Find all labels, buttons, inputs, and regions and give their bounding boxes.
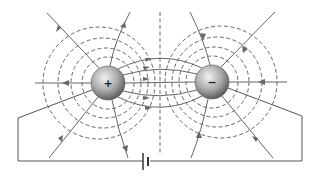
- dipole-diagram: + −: [0, 0, 321, 178]
- negative-charge: −: [195, 65, 229, 99]
- positive-charge: +: [91, 66, 125, 100]
- battery-icon: [143, 153, 148, 170]
- negative-sign: −: [207, 76, 216, 89]
- positive-sign: +: [103, 77, 112, 90]
- field-diagram-svg: + −: [0, 0, 321, 178]
